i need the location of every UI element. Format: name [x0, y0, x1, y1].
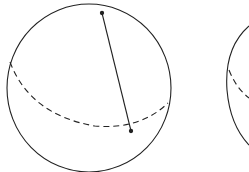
left-sphere — [7, 4, 171, 172]
chord-point-bottom — [129, 129, 132, 132]
right-sphere — [227, 26, 249, 145]
left-sphere-equator-dashed — [10, 62, 168, 127]
right-sphere-outline — [227, 26, 249, 145]
chord-point-top — [100, 11, 103, 14]
sphere-diagram — [0, 0, 249, 172]
left-sphere-outline — [7, 4, 171, 172]
right-sphere-equator-dashed — [229, 70, 249, 98]
chord-line — [102, 13, 131, 131]
